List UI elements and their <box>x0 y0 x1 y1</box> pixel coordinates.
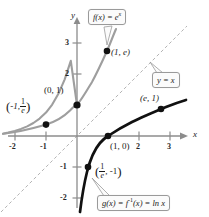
point-log-e <box>158 106 165 113</box>
fraction-one-over-e: 1e <box>20 98 26 115</box>
graph-canvas <box>0 0 209 217</box>
fraction-denominator: e <box>99 171 105 180</box>
callout-logarithm-function: g(x) = f-1(x) = ln x <box>97 195 170 211</box>
point-label-exp-1: (1, e) <box>111 48 130 57</box>
y-tick-label-2: 2 <box>65 70 69 78</box>
point-exp-neg1 <box>43 121 50 128</box>
fraction-numerator: 1 <box>20 98 26 106</box>
y-tick-label-3: 3 <box>65 39 69 47</box>
y-tick-label-neg1: -1 <box>60 163 67 171</box>
fraction-numerator: 1 <box>99 163 105 171</box>
identity-line-y-equals-x <box>1 26 187 212</box>
paren-close: ) <box>117 164 121 179</box>
point-label-log-1: (1, 0) <box>110 142 130 151</box>
point-exp-0 <box>73 101 80 108</box>
point-label-log-e: (e, 1) <box>140 94 159 103</box>
callout-identity-text: y = x <box>157 75 175 85</box>
fraction-denominator: e <box>20 106 26 115</box>
point-label-exp-neg1: (-1,1e) <box>6 98 30 115</box>
x-tick-label-neg1: -1 <box>40 143 47 151</box>
y-tick-label-neg2: -2 <box>60 194 67 202</box>
point-exp-1 <box>104 48 111 55</box>
point-label-log-inv-e-y: , -1 <box>105 166 117 176</box>
fraction-one-over-e: 1e <box>99 163 105 180</box>
y-axis-label: y <box>71 11 75 20</box>
callout-exponential-text: f(x) = e <box>93 12 119 22</box>
x-axis-label: x <box>193 130 197 139</box>
x-tick-label-2: 2 <box>136 143 140 151</box>
x-tick-label-neg2: -2 <box>9 143 16 151</box>
log-callout-tail <box>92 178 110 196</box>
callout-logarithm-text-a: g(x) = f <box>102 198 128 208</box>
callout-logarithm-text-b: (x) = ln x <box>133 198 165 208</box>
point-log-inv-e <box>85 164 92 171</box>
exponential-curve-main <box>3 29 116 134</box>
callout-exponential-function: f(x) = ex <box>88 9 126 25</box>
callout-identity-line: y = x <box>152 72 180 88</box>
point-label-log-inv-e: (1e, -1) <box>95 163 122 180</box>
x-tick-label-3: 3 <box>167 143 171 151</box>
function-graph-figure: y x -2 -1 2 3 3 2 -1 -2 (-1,1e) (0, 1) (… <box>0 0 209 217</box>
point-log-1 <box>105 133 112 140</box>
point-label-exp-0: (0, 1) <box>44 86 64 95</box>
point-label-exp-neg1-x: -1, <box>10 101 20 111</box>
callout-exponential-exponent: x <box>119 11 122 17</box>
x-axis-arrowhead <box>180 133 188 140</box>
paren-close: ) <box>26 99 30 114</box>
